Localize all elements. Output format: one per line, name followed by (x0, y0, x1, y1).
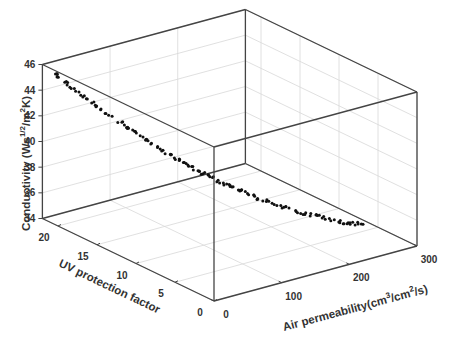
data-point (66, 84, 69, 87)
data-point (104, 112, 107, 115)
y-tick-label: 10 (116, 270, 128, 281)
x-tick-label: 300 (421, 254, 438, 265)
data-point (164, 152, 167, 155)
data-point (99, 108, 102, 111)
y-tick-label: 5 (158, 288, 164, 299)
side-wall-grid-line (245, 35, 417, 118)
y-tick (175, 281, 178, 283)
data-point (142, 135, 145, 138)
data-point (66, 81, 69, 84)
back-wall-grid-line (42, 112, 245, 167)
box-edge (42, 164, 245, 219)
data-point (68, 86, 71, 89)
grid-lines (42, 10, 417, 302)
data-point (190, 165, 193, 168)
3d-scatter-chart: 34363840424446051015200100200300 Conduct… (0, 0, 458, 345)
data-point (328, 217, 331, 220)
data-point (349, 221, 352, 224)
y-tick (58, 225, 61, 227)
data-point (144, 139, 147, 142)
data-point (95, 104, 98, 107)
data-point (225, 183, 228, 186)
data-point (74, 90, 77, 93)
box-edge (245, 10, 417, 93)
data-point (116, 121, 119, 124)
box-edge (214, 92, 417, 147)
data-point (279, 204, 282, 207)
y-tick (136, 262, 139, 264)
data-point (83, 94, 86, 97)
data-point (333, 218, 336, 221)
x-axis-label: Air permeability(cm3/cm2/s) (281, 281, 429, 333)
data-point (135, 132, 138, 135)
floor-grid-line (175, 227, 378, 282)
box-edge (42, 10, 245, 65)
data-point (247, 193, 250, 196)
data-point (362, 223, 365, 226)
y-tick-label: 0 (197, 307, 203, 318)
floor-grid-line (136, 209, 339, 264)
data-point (324, 218, 327, 221)
data-point (315, 213, 318, 216)
data-point (63, 81, 66, 84)
x-tick-label: 0 (223, 309, 229, 320)
data-point (160, 150, 163, 153)
x-tick-label: 100 (285, 291, 302, 302)
data-point (56, 73, 59, 76)
data-point (200, 173, 203, 176)
side-wall-grid-line (245, 112, 417, 195)
data-point (354, 224, 357, 227)
data-point (156, 146, 159, 149)
y-tick-label: 20 (38, 232, 50, 243)
back-wall-grid-line (42, 35, 245, 90)
data-point (346, 222, 349, 225)
x-tick-label: 200 (353, 272, 370, 283)
data-point (186, 163, 189, 166)
data-point (296, 211, 299, 214)
data-point (208, 175, 211, 178)
data-point (273, 203, 276, 206)
y-tick (97, 243, 100, 245)
data-point (232, 185, 235, 188)
data-point (322, 215, 325, 218)
data-point (169, 153, 172, 156)
z-axis-label: Conductivity (Ws1/2/m2K) (18, 96, 32, 231)
z-tick-label: 44 (24, 85, 36, 96)
data-point (107, 114, 110, 117)
data-point (78, 91, 81, 94)
data-point (218, 182, 221, 185)
floor-grid-line (97, 190, 300, 245)
data-point (150, 142, 153, 145)
data-point (178, 158, 181, 161)
axes-box-back (42, 10, 417, 247)
data-point (139, 134, 142, 137)
x-tick (279, 281, 282, 283)
z-tick-label: 46 (24, 59, 36, 70)
data-point (127, 127, 130, 130)
data-point (288, 206, 291, 209)
data-point (267, 200, 270, 203)
y-tick-label: 15 (77, 251, 89, 262)
data-point (111, 115, 114, 118)
data-point (222, 182, 225, 185)
data-point (244, 190, 247, 193)
data-point (343, 222, 346, 225)
data-point (284, 205, 287, 208)
data-point (240, 189, 243, 192)
data-point (253, 195, 256, 198)
data-point (217, 179, 220, 182)
data-point (173, 157, 176, 160)
data-point (261, 199, 264, 202)
data-point (339, 219, 342, 222)
data-point (356, 221, 359, 224)
data-point (309, 212, 312, 215)
side-wall-grid-line (245, 138, 417, 221)
data-point (92, 100, 95, 103)
data-point (275, 204, 278, 207)
floor-grid-line (58, 171, 261, 226)
floor-grid-line (110, 200, 282, 282)
x-tick (346, 263, 349, 265)
data-point (256, 198, 259, 201)
data-point (351, 221, 354, 224)
data-point (192, 168, 195, 171)
